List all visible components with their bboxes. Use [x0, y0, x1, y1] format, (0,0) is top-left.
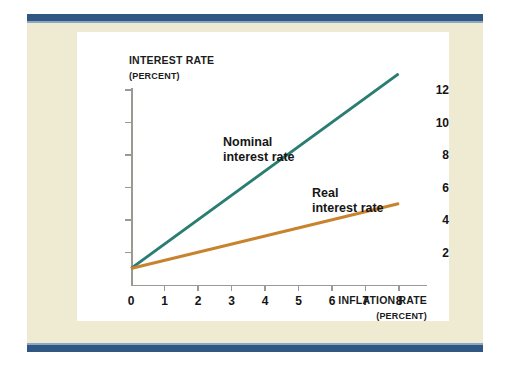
y-tick — [125, 154, 131, 155]
series-label-real: Real interest rate — [312, 186, 384, 216]
x-axis-title-text: INFLATION RATE — [338, 294, 427, 306]
x-tick-label: 6 — [320, 294, 344, 308]
y-tick-label: 4 — [403, 213, 449, 227]
x-tick — [264, 285, 265, 291]
x-tick-label: 2 — [186, 294, 210, 308]
x-tick — [331, 285, 332, 291]
x-tick — [298, 285, 299, 291]
y-axis-title-text: INTEREST RATE — [129, 54, 214, 66]
x-tick — [197, 285, 198, 291]
x-tick-label: 3 — [220, 294, 244, 308]
x-axis-units-text: (PERCENT) — [255, 311, 427, 321]
series-label-real-line1: Real — [312, 186, 338, 200]
series-label-real-line2: interest rate — [312, 201, 384, 216]
y-tick — [125, 252, 131, 253]
top-rule — [27, 14, 483, 21]
figure-page: INTEREST RATE (PERCENT) INFLATION RATE (… — [0, 0, 510, 368]
bottom-rule-accent — [27, 343, 483, 345]
x-tick-label: 5 — [287, 294, 311, 308]
chart-card: INTEREST RATE (PERCENT) INFLATION RATE (… — [77, 32, 449, 321]
y-tick — [125, 219, 131, 220]
series-label-nominal-line1: Nominal — [223, 135, 272, 149]
series-label-nominal-line2: interest rate — [223, 150, 295, 165]
x-tick-label: 4 — [253, 294, 277, 308]
series-label-nominal: Nominal interest rate — [223, 135, 295, 165]
series-line-nominal — [130, 73, 400, 270]
y-tick-label: 12 — [403, 83, 449, 97]
x-tick — [164, 285, 165, 291]
y-tick-label: 8 — [403, 148, 449, 162]
y-axis-units-text: (PERCENT) — [129, 71, 214, 81]
y-tick-label: 6 — [403, 181, 449, 195]
y-tick — [125, 89, 131, 90]
plot-area: INTEREST RATE (PERCENT) INFLATION RATE (… — [77, 32, 449, 321]
y-tick — [125, 187, 131, 188]
x-tick — [365, 285, 366, 291]
y-tick-label: 2 — [403, 246, 449, 260]
x-tick-label: 7 — [354, 294, 378, 308]
x-tick-label: 0 — [119, 294, 143, 308]
y-axis-line — [131, 88, 133, 286]
x-axis-line — [131, 285, 427, 287]
y-tick-label: 10 — [403, 116, 449, 130]
x-tick — [398, 285, 399, 291]
bottom-rule — [27, 345, 483, 352]
x-tick-label: 8 — [387, 294, 411, 308]
y-axis-title: INTEREST RATE (PERCENT) — [129, 50, 214, 81]
top-rule-accent — [27, 21, 483, 23]
y-tick — [125, 122, 131, 123]
x-tick-label: 1 — [153, 294, 177, 308]
x-tick — [231, 285, 232, 291]
